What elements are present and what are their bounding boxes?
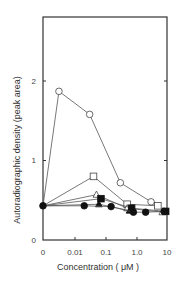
x-tick-label: 0.1 <box>100 248 112 257</box>
y-tick-label: 0 <box>32 236 37 245</box>
x-tick-label: 1.0 <box>131 248 143 257</box>
x-tick-labels: 0 0.01 0.1 1.0 10 <box>41 248 172 257</box>
open-square-marker <box>90 173 97 180</box>
axis-ticks <box>43 81 167 240</box>
y-tick-label: 2 <box>32 77 37 86</box>
data-series <box>40 88 169 215</box>
series-line <box>43 91 151 205</box>
open-circle-marker <box>56 88 63 95</box>
y-tick-label: 1 <box>32 156 37 165</box>
x-tick-label: 10 <box>163 248 172 257</box>
x-axis-title: Concentration ( μM ) <box>57 262 139 272</box>
y-tick-labels: 0 1 2 <box>32 77 37 245</box>
x-tick-label: 0.01 <box>67 248 83 257</box>
filled-circle-marker <box>161 208 168 215</box>
filled-circle-marker <box>142 209 149 216</box>
series-filled-triangle <box>43 201 133 214</box>
filled-circle-marker <box>81 203 88 210</box>
open-circle-marker <box>86 111 93 118</box>
series-open-circle <box>43 88 154 206</box>
open-square-marker <box>155 203 162 210</box>
filled-circle-marker <box>108 203 115 210</box>
x-tick-label: 0 <box>41 248 46 257</box>
open-circle-marker <box>148 199 155 206</box>
origin-marker <box>40 203 47 210</box>
y-axis-title: Autoradiographic density (peak area) <box>12 76 22 224</box>
open-circle-marker <box>117 179 124 186</box>
chart: 0 0.01 0.1 1.0 10 0 1 2 Concentration ( … <box>0 0 180 284</box>
filled-circle-marker <box>130 209 137 216</box>
